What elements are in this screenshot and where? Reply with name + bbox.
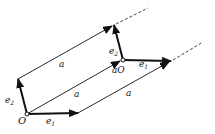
a-label-lower: a — [126, 88, 131, 98]
e1-vector-at-origin — [27, 113, 78, 114]
a-label-upper: a — [59, 59, 64, 69]
origin-label: O — [18, 115, 26, 126]
e2-label-translated: e2 — [109, 46, 118, 57]
translated-origin-point — [121, 58, 125, 62]
e2-label-origin: e2 — [5, 95, 14, 106]
a-label-middle: a — [74, 89, 79, 99]
translation-line-upper — [18, 26, 112, 79]
vector-diagram: O aO e1 e2 e1 e2 a a a — [0, 0, 215, 134]
translated-origin-label: aO — [112, 65, 125, 75]
dashed-extension-lower — [173, 42, 203, 60]
translation-vector-a — [27, 61, 120, 114]
dashed-extension-upper — [116, 8, 148, 24]
e2-vector-at-origin — [18, 79, 27, 114]
e1-label-origin: e1 — [46, 116, 55, 127]
e1-vector-at-translated-origin — [123, 60, 171, 61]
